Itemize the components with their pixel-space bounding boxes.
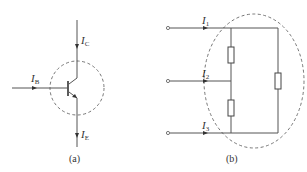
terminal-2 [166,79,169,82]
base-current-arrow-icon [32,86,37,90]
resistor-bottom-left [228,100,234,116]
label-i1: I1 [201,14,210,28]
collector-junction [69,78,77,84]
label-ic: IC [80,34,90,48]
resistor-top-left [228,47,234,63]
emitter-current-arrow-icon [75,133,79,138]
diagram-a: IC IB IE (a) [12,20,104,165]
label-ie: IE [80,128,89,142]
terminal-3 [166,131,169,134]
diagram-b: I1 I2 I3 (b) [166,14,304,165]
label-i2: I2 [201,67,210,81]
circuit-figure: IC IB IE (a) I1 I2 I3 (b) [0,0,307,172]
collector-current-arrow-icon [75,44,79,49]
label-i3: I3 [201,119,210,133]
resistor-right [275,73,281,89]
label-ib: IB [30,72,40,86]
caption-a: (a) [69,153,80,165]
terminal-1 [166,26,169,29]
caption-b: (b) [226,153,238,165]
